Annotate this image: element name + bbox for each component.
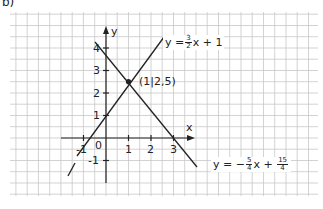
equation-text: y = − (213, 158, 245, 171)
y-axis-arrow-icon (103, 26, 109, 34)
x-tick-label: -1 (76, 144, 87, 155)
x-axis-arrow-icon (187, 135, 195, 141)
rising-line-equation: y = 3 2 x + 1 (163, 35, 224, 50)
fraction-denominator: 2 (185, 43, 191, 50)
x-tick-label: 2 (147, 144, 154, 155)
x-tick-label: 1 (125, 144, 132, 155)
falling-line-equation: y = − 5 4 x + 15 4 (211, 157, 291, 172)
slope-fraction: 5 4 (246, 157, 252, 172)
slope-fraction: 3 2 (185, 35, 191, 50)
y-axis-label: y (111, 26, 118, 37)
equation-text: x + (253, 158, 276, 171)
y-tick-label: -1 (88, 155, 99, 166)
fraction-denominator: 4 (279, 165, 285, 172)
intersection-point (126, 79, 131, 84)
y-tick-label: 1 (93, 110, 100, 121)
y-tick-label: 3 (93, 65, 100, 76)
origin-label: 0 (95, 140, 102, 151)
equation-text: x + 1 (193, 36, 223, 49)
equation-text: y = (165, 36, 184, 49)
rising-line-lower-segment (68, 163, 75, 176)
coordinate-diagram (0, 0, 323, 209)
y-tick-label: 4 (93, 43, 100, 54)
x-tick-label: 3 (170, 144, 177, 155)
fraction-denominator: 4 (246, 165, 252, 172)
x-axis-label: x (186, 122, 193, 133)
y-tick-label: 2 (93, 88, 100, 99)
part-label: b) (2, 0, 14, 8)
intercept-fraction: 15 4 (277, 157, 288, 172)
intersection-label: (1|2,5) (139, 76, 176, 87)
